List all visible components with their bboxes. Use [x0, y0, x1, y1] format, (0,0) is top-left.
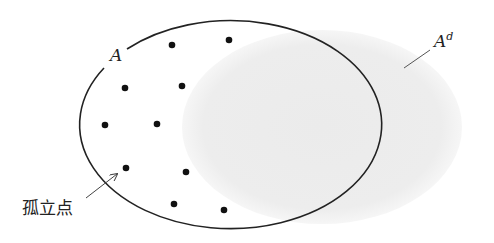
- point: [171, 201, 178, 208]
- derived-set-label-base: A: [432, 31, 446, 51]
- point: [154, 121, 161, 128]
- point: [226, 37, 233, 44]
- point: [183, 169, 190, 176]
- point: [169, 42, 176, 49]
- point: [179, 83, 186, 90]
- isolated-point: [123, 165, 130, 172]
- derived-set-region: [182, 30, 462, 224]
- point: [221, 207, 228, 214]
- point: [102, 122, 109, 129]
- derived-set-label: Ad: [432, 30, 453, 51]
- point: [122, 85, 129, 92]
- isolated-point-label: 孤立点: [22, 198, 73, 218]
- set-a-label: A: [108, 45, 122, 65]
- diagram-canvas: A Ad 孤立点: [0, 0, 494, 243]
- derived-set-label-sup: d: [446, 30, 453, 43]
